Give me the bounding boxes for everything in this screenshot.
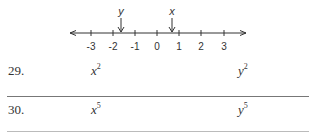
tick-label: -2 [109, 41, 118, 52]
divider [7, 96, 309, 97]
right-expression: y5 [238, 102, 248, 118]
left-expression: x2 [91, 63, 101, 79]
y-marker-label: y [117, 5, 125, 17]
tick-label: 0 [154, 41, 160, 52]
number-line: -3 -2 -1 0 1 2 3 y x [0, 0, 309, 60]
problem-row-29: 29. x2 y2 [0, 63, 309, 87]
tick-label: 3 [221, 41, 227, 52]
y-marker: y [117, 5, 125, 32]
tick-label: -3 [87, 41, 96, 52]
problem-number: 29. [8, 63, 24, 79]
problem-number: 30. [8, 102, 24, 118]
x-marker: x [168, 5, 175, 32]
x-marker-label: x [168, 5, 175, 17]
tick-label: 2 [198, 41, 204, 52]
divider [7, 131, 309, 132]
tick-label: -1 [131, 41, 140, 52]
right-expression: y2 [238, 63, 248, 79]
left-expression: x5 [91, 102, 101, 118]
tick-label: 1 [176, 41, 182, 52]
problem-row-30: 30. x5 y5 [0, 102, 309, 126]
